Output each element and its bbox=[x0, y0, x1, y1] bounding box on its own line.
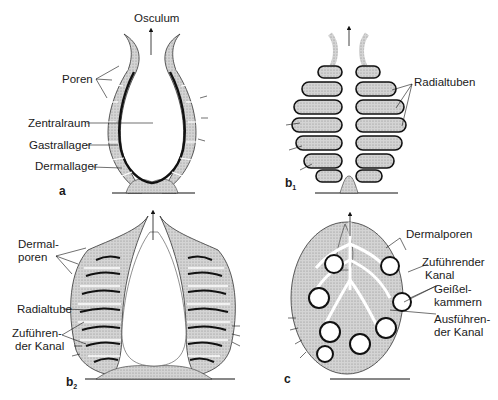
panel-b1-sycon-diagram bbox=[286, 28, 412, 193]
panel-label-a: a bbox=[59, 184, 66, 198]
label-poren: Poren bbox=[62, 73, 93, 85]
label-dermalporen-c: Dermalporen bbox=[406, 228, 472, 240]
label-osculum: Osculum bbox=[134, 12, 179, 24]
panel-a-ascon-diagram bbox=[86, 30, 208, 193]
label-zufuehrender-c-line2: Kanal bbox=[425, 269, 454, 281]
label-zufuehrender-c-line1: Zuführender bbox=[422, 256, 485, 268]
label-dermalporen-b2-line1: Dermal- bbox=[18, 238, 59, 250]
label-dermallager: Dermallager bbox=[35, 160, 98, 172]
label-gastrallager: Gastrallager bbox=[29, 139, 92, 151]
panel-label-b2: b2 bbox=[66, 375, 77, 390]
label-radialtube: Radialtube bbox=[17, 303, 72, 315]
label-geisselkammern-line1: Geißel- bbox=[434, 283, 472, 295]
label-ausfuehrender-line2: der Kanal bbox=[434, 326, 483, 338]
label-geisselkammern-line2: kammern bbox=[434, 296, 482, 308]
panel-label-c: c bbox=[284, 372, 291, 386]
label-radialtuben: Radialtuben bbox=[414, 76, 475, 88]
panel-b2-sycon-cortex-diagram bbox=[56, 212, 240, 379]
label-zufuehrender-b2-line1: Zuführen- bbox=[12, 327, 62, 339]
label-dermalporen-b2-line2: poren bbox=[18, 251, 47, 263]
label-zentralraum: Zentralraum bbox=[28, 117, 90, 129]
sponge-body-types-diagram bbox=[0, 0, 498, 400]
label-zufuehrender-b2-line2: der Kanal bbox=[15, 340, 64, 352]
label-ausfuehrender-line1: Ausführen- bbox=[434, 313, 490, 325]
panel-label-b1: b1 bbox=[285, 176, 296, 191]
